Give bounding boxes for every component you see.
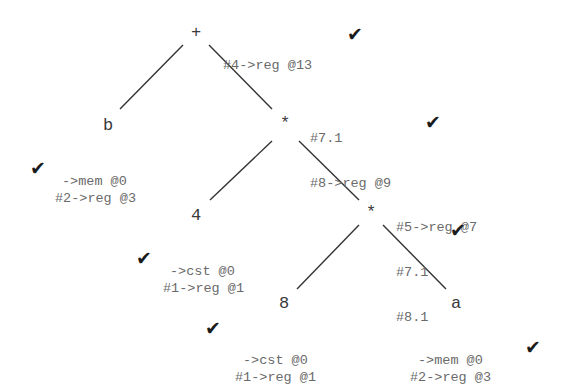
annotation-mul1: #7.1 #8->reg @9 (310, 101, 391, 221)
edge-mul1-four (210, 141, 272, 200)
annotation-line: #2->reg @3 (410, 370, 491, 385)
node-a: a (451, 295, 461, 313)
annotation-line: #7.1 (396, 265, 477, 280)
check-icon: ✔ (136, 249, 152, 268)
edge-mul2-eight (297, 225, 359, 289)
annotation-b-2: #2->reg @3 (55, 161, 136, 236)
annotation-plus: #4->reg @13 (223, 28, 312, 103)
check-icon: ✔ (525, 338, 541, 357)
annotation-line: #8->reg @9 (310, 176, 391, 191)
check-icon: ✔ (205, 319, 221, 338)
check-icon: ✔ (425, 113, 441, 132)
node-mul2: * (366, 204, 376, 222)
annotation-eight-2: #1->reg @1 (235, 340, 316, 388)
node-b: b (103, 117, 113, 135)
node-eight: 8 (279, 295, 289, 313)
annotation-a-2: #2->reg @3 (410, 340, 491, 388)
node-mul1: * (280, 115, 290, 133)
annotation-four-2: #1->reg @1 (163, 251, 244, 326)
annotation-line: #7.1 (310, 131, 391, 146)
edge-plus-b (120, 45, 183, 109)
check-icon: ✔ (450, 221, 466, 240)
annotation-line: #1->reg @1 (163, 281, 244, 296)
annotation-line: #1->reg @1 (235, 370, 316, 385)
check-icon: ✔ (347, 25, 363, 44)
node-plus: + (191, 24, 201, 42)
check-icon: ✔ (30, 159, 46, 178)
annotation-line: #4->reg @13 (223, 58, 312, 73)
node-four: 4 (191, 207, 201, 225)
annotation-line: #2->reg @3 (55, 191, 136, 206)
